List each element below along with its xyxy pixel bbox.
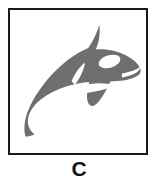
orca-body-group bbox=[24, 25, 140, 137]
figure-caption: C bbox=[0, 156, 158, 182]
figure-panel: Gray silhouette of a leaping orca (kille… bbox=[0, 0, 158, 184]
orca-illustration: Gray silhouette of a leaping orca (kille… bbox=[10, 10, 146, 153]
orca-body-shape bbox=[24, 25, 140, 137]
image-frame: Gray silhouette of a leaping orca (kille… bbox=[8, 8, 148, 155]
